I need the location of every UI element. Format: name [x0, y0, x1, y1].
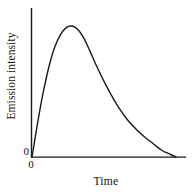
- y-axis-label: Emission intensity: [4, 1, 18, 151]
- emission-intensity-chart: Emission intensity Time 0 0: [0, 0, 193, 194]
- y-axis-origin-tick-label: 0: [19, 146, 29, 157]
- x-axis-origin-tick-label: 0: [26, 159, 36, 170]
- x-axis-label: Time: [60, 174, 152, 189]
- emission-decay-curve: [32, 26, 176, 157]
